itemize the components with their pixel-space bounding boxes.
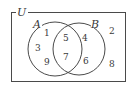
element-a-only: 3 [35, 43, 41, 53]
element-outside: 2 [109, 26, 115, 36]
universe-label: U [17, 6, 27, 19]
element-b-only: 6 [83, 56, 89, 66]
element-a-only: 1 [44, 28, 50, 38]
element-intersection: 7 [63, 52, 69, 62]
universe-rectangle [12, 13, 126, 82]
element-a-only: 9 [44, 57, 50, 67]
element-intersection: 5 [63, 33, 69, 43]
set-b-label: B [90, 18, 99, 31]
set-a-label: A [32, 18, 41, 31]
venn-diagram: U A B 1 3 9 5 7 4 6 2 8 [0, 0, 127, 87]
element-b-only: 4 [82, 33, 88, 43]
element-outside: 8 [109, 59, 115, 69]
